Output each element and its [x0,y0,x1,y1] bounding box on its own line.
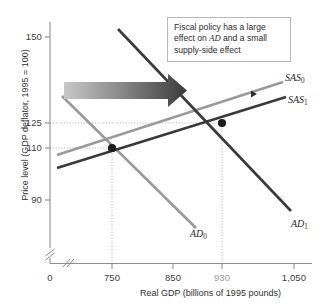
x-tick-label-0: 0 [40,272,60,283]
annotation-line-2-before: effect on [174,33,209,43]
annotation-line-3: supply-side effect [174,45,285,56]
curve-label-ad1: AD1 [291,218,308,229]
curve-label-ad0-sub: 0 [203,233,207,241]
annotation-line-2-after: and a small [221,33,267,43]
annotation-line-1: Fiscal policy has a large [174,22,285,33]
curve-label-ad0-base: AD [190,228,203,239]
economics-ad-sas-chart: 150 125 110 90 0 750 850 930 1,050 Price… [0,0,324,308]
equilibrium-dot-new [218,119,226,127]
x-tick-label-850: 850 [158,272,188,283]
annotation-ad-term: AD [209,33,220,43]
curve-label-sas0-base: SAS [285,72,301,83]
x-tick-label-930: 930 [207,272,237,283]
ad-shift-arrow [64,74,187,107]
curve-label-sas1-sub: 1 [304,99,308,107]
y-axis-title: Price level (GDP deflator, 1995 = 100) [20,40,30,210]
x-axis-title: Real GDP (billions of 1995 pounds) [140,288,320,298]
annotation-line-2: effect on AD and a small [174,33,285,44]
curve-label-ad0: AD0 [190,228,207,239]
x-tick-label-1050: 1,050 [277,272,311,283]
curve-label-ad1-base: AD [291,218,304,229]
x-tick-label-750: 750 [97,272,127,283]
curve-sas1 [57,97,286,168]
equilibrium-dot-initial [108,144,116,152]
curve-label-ad1-sub: 1 [304,223,308,231]
curve-label-sas0-sub: 0 [301,77,305,85]
curve-label-sas1: SAS1 [288,94,308,105]
curve-label-sas1-base: SAS [288,94,304,105]
curve-label-sas0: SAS0 [285,72,305,83]
fiscal-policy-annotation: Fiscal policy has a large effect on AD a… [167,17,291,62]
